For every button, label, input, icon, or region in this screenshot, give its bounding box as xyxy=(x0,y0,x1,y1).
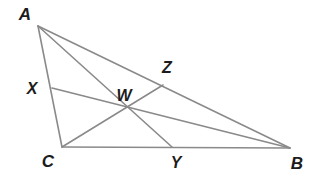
geometry-diagram: A X C W Z Y B xyxy=(0,0,316,176)
segment-side-CB xyxy=(62,147,290,148)
point-label-C: C xyxy=(42,153,54,170)
segment-cevian-X-to-B xyxy=(52,88,290,148)
point-label-W: W xyxy=(116,88,131,104)
point-label-X: X xyxy=(27,81,38,97)
point-label-Z: Z xyxy=(162,60,172,76)
segment-side-AB xyxy=(38,26,290,148)
point-label-A: A xyxy=(19,6,31,23)
point-label-B: B xyxy=(291,155,303,172)
geometry-canvas xyxy=(0,0,316,176)
point-label-Y: Y xyxy=(171,155,182,171)
